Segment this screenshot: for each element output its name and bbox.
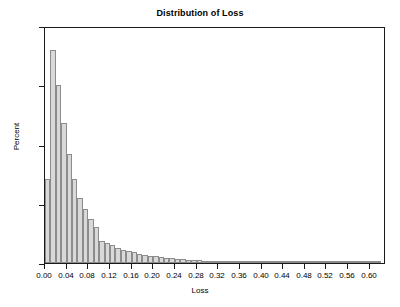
x-axis-title: Loss [0, 286, 400, 295]
x-axis-tick-mark [325, 264, 326, 269]
chart-title: Distribution of Loss [0, 8, 400, 18]
x-axis-tick-mark [282, 264, 283, 269]
histogram-bar [375, 261, 380, 263]
x-axis-tick-mark [304, 264, 305, 269]
x-axis-tick-mark [196, 264, 197, 269]
histogram-figure: Distribution of Loss Percent 05101520 0.… [0, 0, 400, 307]
x-axis-tick-mark [239, 264, 240, 269]
plot-frame [44, 27, 385, 264]
x-axis-tick-mark [369, 264, 370, 269]
x-axis-tick-mark [131, 264, 132, 269]
y-axis: 05101520 [0, 0, 44, 307]
x-axis-tick-mark [152, 264, 153, 269]
x-axis-tick-mark [44, 264, 45, 269]
x-axis-tick-mark [66, 264, 67, 269]
x-axis-tick-mark [87, 264, 88, 269]
x-axis-tick-mark [174, 264, 175, 269]
x-axis-tick-mark [217, 264, 218, 269]
x-axis-tick-mark [261, 264, 262, 269]
plot-area [45, 28, 384, 263]
x-axis-tick-mark [109, 264, 110, 269]
x-axis-tick-mark [347, 264, 348, 269]
x-axis-tick-label: 0.60 [349, 271, 389, 280]
